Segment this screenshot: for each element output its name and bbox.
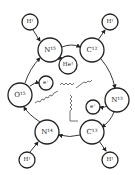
gamma-wave-1 xyxy=(60,83,74,85)
cno-cycle-diagram: H¹ H¹ N¹⁵ C¹² He⁴ O¹⁵ e⁺ N¹³ e⁺ N¹⁴ C¹³ xyxy=(0,0,135,175)
edge-o15-n15 xyxy=(25,58,40,83)
edge-n15-c12 xyxy=(62,45,80,47)
svg-text:N¹⁴: N¹⁴ xyxy=(41,128,53,136)
svg-text:N¹³: N¹³ xyxy=(111,96,123,104)
edge-h1-n15 xyxy=(33,30,40,41)
edge-c12-n13 xyxy=(101,59,115,88)
c13-node: C¹³ xyxy=(80,120,104,144)
svg-text:C¹²: C¹² xyxy=(87,46,98,54)
gamma-wave-3 xyxy=(35,91,58,103)
edge-c13-n14 xyxy=(59,135,80,137)
edge-n13-c13 xyxy=(102,112,114,127)
h1-bottom-right-node: H¹ xyxy=(102,152,118,168)
svg-text:H¹: H¹ xyxy=(26,18,33,24)
gamma-wave-2 xyxy=(76,80,92,88)
svg-text:H¹: H¹ xyxy=(23,156,30,162)
edge-n14-o15 xyxy=(24,107,40,122)
e-plus-left-node: e⁺ xyxy=(39,76,53,90)
n13-node: N¹³ xyxy=(105,88,129,112)
h1-top-right-node: H¹ xyxy=(102,14,118,30)
svg-text:He⁴: He⁴ xyxy=(63,61,74,67)
svg-text:e⁺: e⁺ xyxy=(43,79,49,85)
h1-top-left-node: H¹ xyxy=(22,14,38,30)
edge-c12-h1 xyxy=(98,30,105,40)
h1-bottom-left-node: H¹ xyxy=(19,152,35,168)
gamma-wave-4 xyxy=(70,95,78,121)
svg-text:H¹: H¹ xyxy=(106,18,113,24)
svg-text:e⁺: e⁺ xyxy=(90,103,96,109)
e-plus-right-node: e⁺ xyxy=(86,100,100,114)
svg-text:O¹⁵: O¹⁵ xyxy=(14,91,26,99)
edge-h1-n14 xyxy=(30,142,38,152)
svg-text:H¹: H¹ xyxy=(106,156,113,162)
n15-node: N¹⁵ xyxy=(38,38,62,62)
edge-c13-h1 xyxy=(99,141,106,151)
o15-node: O¹⁵ xyxy=(8,83,32,107)
he4-node: He⁴ xyxy=(59,56,77,74)
n14-node: N¹⁴ xyxy=(35,120,59,144)
edge-o15-eplus xyxy=(30,83,39,86)
svg-text:C¹³: C¹³ xyxy=(87,128,98,136)
c12-node: C¹² xyxy=(80,38,104,62)
svg-text:N¹⁵: N¹⁵ xyxy=(44,46,56,54)
